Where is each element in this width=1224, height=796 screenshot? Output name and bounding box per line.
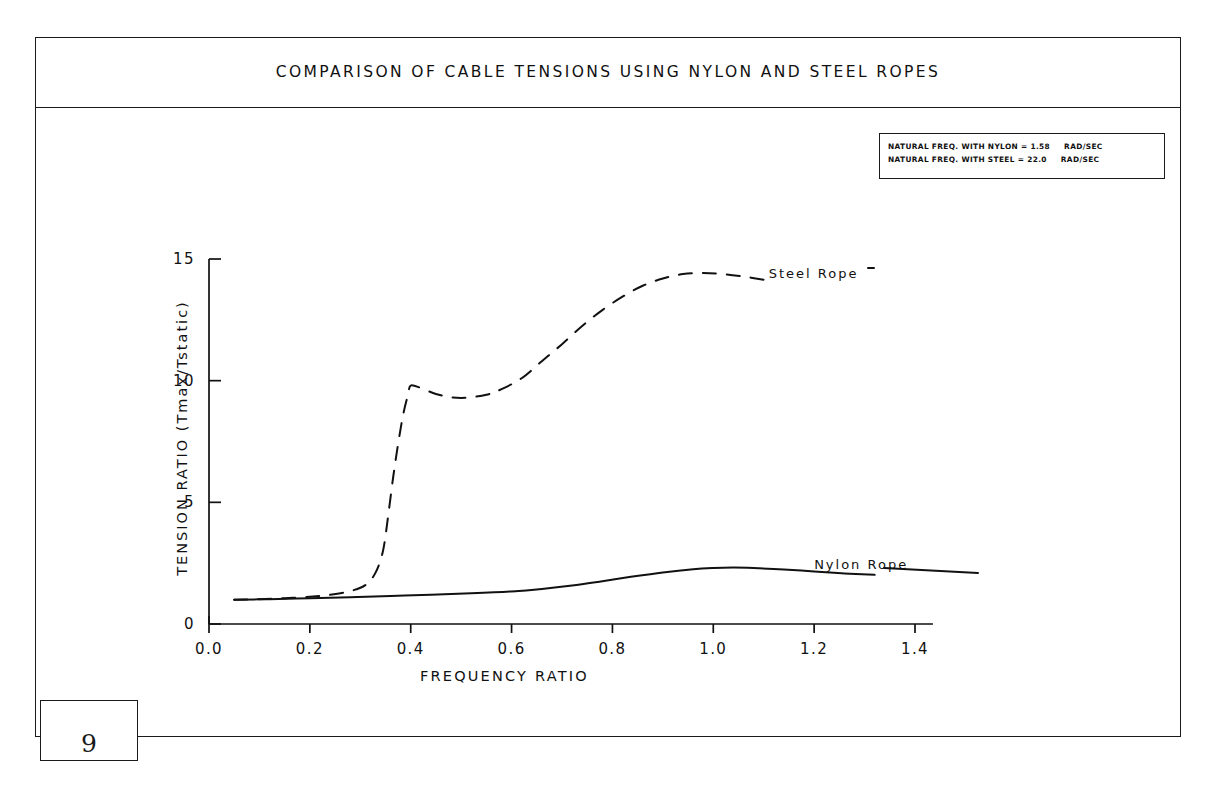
annotation-line-steel: NATURAL FREQ. WITH STEEL = 22.0RAD/SEC	[888, 153, 1156, 166]
annotation-nylon-units: RAD/SEC	[1064, 142, 1103, 151]
annotation-steel-units: RAD/SEC	[1061, 155, 1100, 164]
page-title: COMPARISON OF CABLE TENSIONS USING NYLON…	[276, 63, 941, 81]
annotation-nylon-label: NATURAL FREQ. WITH NYLON = 1.58	[888, 142, 1050, 151]
figure-page: COMPARISON OF CABLE TENSIONS USING NYLON…	[0, 0, 1224, 796]
annotation-line-nylon: NATURAL FREQ. WITH NYLON = 1.58RAD/SEC	[888, 140, 1156, 153]
annotation-box: NATURAL FREQ. WITH NYLON = 1.58RAD/SEC N…	[879, 133, 1165, 179]
page-number-box: 9	[40, 700, 138, 761]
annotation-steel-label: NATURAL FREQ. WITH STEEL = 22.0	[888, 155, 1047, 164]
title-band: COMPARISON OF CABLE TENSIONS USING NYLON…	[35, 37, 1181, 108]
page-number: 9	[81, 731, 97, 760]
